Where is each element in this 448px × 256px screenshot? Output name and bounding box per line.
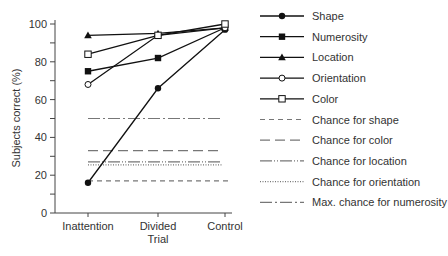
axes: 020406080100InattentionDividedControl bbox=[29, 18, 243, 232]
marker-open-square bbox=[85, 51, 91, 57]
y-axis-label: Subjects correct (%) bbox=[10, 68, 22, 167]
marker-open-square bbox=[222, 21, 228, 27]
legend-item: Color bbox=[260, 93, 339, 105]
y-tick-label: 0 bbox=[41, 207, 47, 219]
legend-item: Numerosity bbox=[260, 31, 368, 43]
legend-label: Location bbox=[312, 51, 354, 63]
marker-filled-square bbox=[85, 68, 91, 74]
marker-open-square bbox=[155, 32, 161, 38]
legend-item: Orientation bbox=[260, 72, 366, 84]
marker-filled-circle bbox=[155, 85, 161, 91]
y-tick-label: 40 bbox=[35, 131, 47, 143]
legend-label: Numerosity bbox=[312, 31, 368, 43]
legend-label: Color bbox=[312, 93, 339, 105]
x-axis-label: Trial bbox=[148, 233, 169, 245]
marker-filled-square bbox=[155, 55, 161, 61]
series-line bbox=[88, 30, 225, 183]
legend-item: Shape bbox=[260, 10, 344, 22]
x-tick-label: Divided bbox=[140, 220, 177, 232]
legend-label: Orientation bbox=[312, 72, 366, 84]
series-color bbox=[85, 21, 228, 58]
legend-item: Chance for color bbox=[260, 134, 393, 146]
legend-label: Chance for color bbox=[312, 134, 393, 146]
y-tick-label: 80 bbox=[35, 56, 47, 68]
reference-lines bbox=[88, 119, 229, 181]
x-tick-label: Inattention bbox=[62, 220, 113, 232]
marker-open-circle bbox=[279, 75, 285, 81]
marker-filled-circle bbox=[85, 180, 91, 186]
marker-open-circle bbox=[85, 81, 91, 87]
legend-item: Chance for location bbox=[260, 155, 407, 167]
legend: ShapeNumerosityLocationOrientationColorC… bbox=[260, 10, 448, 208]
marker-open-square bbox=[279, 96, 285, 102]
legend-label: Chance for shape bbox=[312, 114, 399, 126]
legend-item: Location bbox=[260, 51, 354, 63]
legend-item: Chance for orientation bbox=[260, 176, 420, 188]
y-tick-label: 20 bbox=[35, 169, 47, 181]
legend-item: Chance for shape bbox=[260, 114, 399, 126]
legend-label: Chance for orientation bbox=[312, 176, 420, 188]
marker-filled-circle bbox=[279, 13, 285, 19]
marker-filled-square bbox=[279, 34, 285, 40]
series-lines bbox=[84, 21, 229, 186]
series-line bbox=[88, 24, 225, 54]
chart: 020406080100InattentionDividedControl Sh… bbox=[0, 0, 448, 256]
y-tick-label: 60 bbox=[35, 94, 47, 106]
legend-item: Max. chance for numerosity bbox=[260, 196, 448, 208]
y-tick-label: 100 bbox=[29, 18, 47, 30]
legend-label: Max. chance for numerosity bbox=[312, 196, 448, 208]
x-tick-label: Control bbox=[207, 220, 242, 232]
legend-label: Chance for location bbox=[312, 155, 407, 167]
legend-label: Shape bbox=[312, 10, 344, 22]
